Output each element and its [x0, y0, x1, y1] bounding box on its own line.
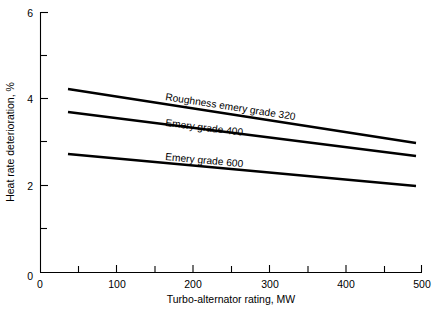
y-tick-label-2: 2 [27, 180, 33, 192]
axes-frame [40, 12, 422, 273]
x-axis-title: Turbo-alternator rating, MW [167, 293, 296, 305]
line-chart-svg: 6 4 2 0 0 100 200 300 400 500 Turb [0, 0, 442, 309]
x-tick-label-100: 100 [108, 278, 126, 290]
y-axis-tick-labels: 6 4 2 0 [27, 7, 33, 283]
y-tick-label-4: 4 [27, 93, 33, 105]
y-tick-label-6: 6 [27, 7, 33, 19]
x-axis-tick-labels: 0 100 200 300 400 500 [37, 278, 431, 290]
x-tick-label-200: 200 [184, 278, 202, 290]
y-axis-ticks [41, 13, 49, 229]
series-labels: Roughness emery grade 320 Emery grade 40… [165, 91, 297, 169]
x-tick-label-300: 300 [261, 278, 279, 290]
series-label-emery-grade-400: Emery grade 400 [165, 117, 244, 138]
x-axis-ticks [79, 265, 422, 273]
x-tick-label-500: 500 [413, 278, 431, 290]
y-axis-title: Heat rate deterioration, % [4, 82, 16, 202]
x-tick-label-0: 0 [37, 278, 43, 290]
y-tick-label-0: 0 [27, 270, 33, 282]
x-tick-label-400: 400 [337, 278, 355, 290]
chart-figure: 6 4 2 0 0 100 200 300 400 500 Turb [0, 0, 442, 309]
